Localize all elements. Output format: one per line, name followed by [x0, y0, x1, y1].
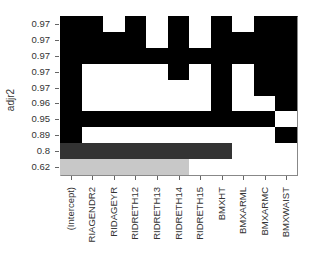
heatmap-cell [275, 127, 297, 144]
heatmap-cell [275, 64, 297, 81]
heatmap-cell [189, 48, 211, 65]
heatmap-cell [146, 159, 168, 176]
y-tick-label: 0.96 [10, 97, 50, 108]
heatmap-cell [103, 159, 125, 176]
heatmap-cell [189, 96, 211, 113]
heatmap-cell [146, 80, 168, 97]
y-tick-mark [55, 135, 59, 136]
heatmap-cell [168, 80, 190, 97]
heatmap-cell [211, 127, 233, 144]
heatmap-cell [168, 32, 190, 49]
y-tick-label: 0.8 [10, 145, 50, 156]
y-tick-label: 0.97 [10, 82, 50, 93]
heatmap-cell [254, 127, 276, 144]
heatmap-cell [232, 127, 254, 144]
heatmap-cell [232, 16, 254, 33]
heatmap-cell [125, 143, 147, 160]
y-tick-mark [55, 56, 59, 57]
x-tick-label: RIDAGEYR [108, 187, 119, 237]
heatmap-cell [275, 96, 297, 113]
heatmap-cell [82, 96, 104, 113]
heatmap-cell [103, 48, 125, 65]
x-tick-label: BMXHT [216, 187, 227, 220]
heatmap-cell [168, 127, 190, 144]
heatmap-cell [211, 32, 233, 49]
heatmap-cell [146, 16, 168, 33]
heatmap-cell [211, 80, 233, 97]
heatmap-cell [211, 111, 233, 128]
y-tick-label: 0.62 [10, 161, 50, 172]
heatmap-cell [189, 143, 211, 160]
heatmap-cell [125, 32, 147, 49]
x-tick-mark [200, 176, 201, 180]
x-tick-mark [92, 176, 93, 180]
heatmap-cell [125, 111, 147, 128]
x-tick-label: BMXWAIST [280, 187, 291, 237]
heatmap-cell [275, 111, 297, 128]
heatmap-cell [254, 143, 276, 160]
heatmap-cell [232, 111, 254, 128]
heatmap-cell [60, 159, 82, 176]
heatmap-cell [189, 127, 211, 144]
heatmap-cell [125, 48, 147, 65]
heatmap-cell [275, 16, 297, 33]
y-tick-label: 0.97 [10, 50, 50, 61]
heatmap-cell [146, 96, 168, 113]
x-tick-mark [222, 176, 223, 180]
heatmap-cell [254, 80, 276, 97]
x-tick-label: RIDRETH15 [194, 187, 205, 240]
heatmap-cell [254, 48, 276, 65]
heatmap-cell [103, 80, 125, 97]
heatmap-cell [125, 96, 147, 113]
x-tick-mark [114, 176, 115, 180]
x-tick-label: BMXARML [237, 187, 248, 234]
heatmap-cell [254, 159, 276, 176]
y-tick-mark [55, 88, 59, 89]
heatmap-cell [60, 96, 82, 113]
heatmap-cell [60, 32, 82, 49]
heatmap-cell [146, 143, 168, 160]
heatmap-cell [60, 80, 82, 97]
y-tick-mark [55, 119, 59, 120]
heatmap-cell [189, 32, 211, 49]
heatmap-cell [211, 16, 233, 33]
heatmap-cell [232, 96, 254, 113]
heatmap-cell [82, 111, 104, 128]
heatmap-cell [168, 111, 190, 128]
heatmap-cell [60, 16, 82, 33]
heatmap-cell [189, 16, 211, 33]
heatmap-cell [125, 16, 147, 33]
heatmap-cell [168, 64, 190, 81]
x-tick-mark [71, 176, 72, 180]
y-tick-mark [55, 40, 59, 41]
heatmap-cell [189, 159, 211, 176]
heatmap-cell [60, 48, 82, 65]
heatmap-cell [232, 48, 254, 65]
heatmap-cell [146, 111, 168, 128]
heatmap-cell [146, 32, 168, 49]
heatmap-cell [82, 143, 104, 160]
heatmap-cell [60, 64, 82, 81]
heatmap-cell [103, 32, 125, 49]
heatmap-cell [254, 96, 276, 113]
heatmap-cell [146, 48, 168, 65]
heatmap-cell [211, 48, 233, 65]
y-tick-label: 0.97 [10, 66, 50, 77]
heatmap-cell [232, 159, 254, 176]
heatmap-cell [103, 16, 125, 33]
heatmap-cell [211, 159, 233, 176]
heatmap-cell [82, 48, 104, 65]
heatmap-cell [189, 111, 211, 128]
heatmap-cell [168, 143, 190, 160]
y-tick-mark [55, 167, 59, 168]
y-tick-label: 0.89 [10, 129, 50, 140]
x-tick-label: (Intercept) [65, 187, 76, 230]
heatmap-cell [189, 80, 211, 97]
heatmap-cell [254, 64, 276, 81]
heatmap-cell [125, 64, 147, 81]
heatmap-cell [60, 143, 82, 160]
x-tick-mark [265, 176, 266, 180]
heatmap-cell [275, 143, 297, 160]
heatmap-cell [168, 96, 190, 113]
x-tick-label: BMXARMC [259, 187, 270, 236]
